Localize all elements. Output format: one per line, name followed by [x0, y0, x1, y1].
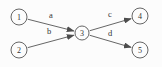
edge-line-2-3: [28, 35, 74, 47]
node-label-1: 1: [17, 13, 21, 22]
node-label-2: 2: [17, 46, 21, 55]
node-1: 1: [11, 9, 27, 25]
node-5: 5: [132, 42, 148, 58]
node-2: 2: [11, 42, 27, 58]
node-3: 3: [75, 26, 89, 40]
node-4: 4: [132, 8, 148, 24]
graph-diagram: abcd12345: [0, 0, 162, 67]
node-label-3: 3: [80, 29, 84, 38]
edge-label-3-5: d: [108, 28, 113, 38]
node-label-5: 5: [138, 46, 142, 55]
edge-label-2-3: b: [47, 26, 51, 36]
graph-svg: abcd12345: [0, 0, 162, 67]
edge-label-1-3: a: [49, 10, 53, 20]
node-label-4: 4: [138, 12, 142, 21]
edge-label-3-4: c: [108, 9, 112, 19]
